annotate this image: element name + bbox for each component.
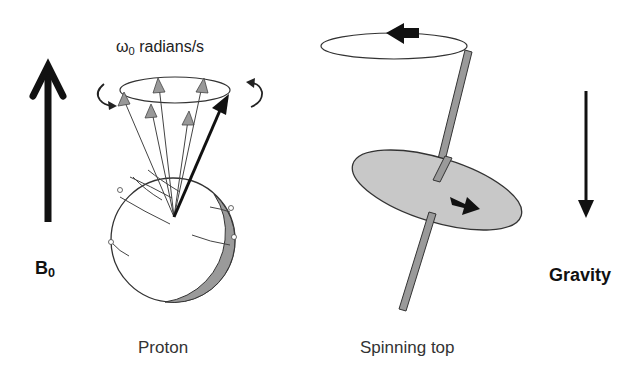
precession-direction-arrow	[386, 23, 419, 44]
spinning-top	[321, 23, 531, 311]
rotation-arrow-left	[98, 84, 117, 110]
diagram-canvas	[0, 0, 640, 374]
b0-label-subscript: 0	[48, 266, 55, 280]
precession-frequency-label: ω0 radians/s	[116, 38, 204, 57]
spinning-top-caption: Spinning top	[360, 338, 455, 358]
gravity-arrow	[578, 91, 594, 218]
top-disk	[343, 134, 530, 247]
proton-caption: Proton	[138, 338, 188, 358]
gravity-label: Gravity	[549, 265, 611, 286]
omega-units: radians/s	[135, 38, 204, 55]
rotation-arrow-right	[246, 78, 262, 107]
omega-symbol: ω	[116, 38, 129, 55]
b0-label-base: B	[35, 258, 48, 278]
b0-field-arrow	[33, 66, 63, 222]
b0-label: B0	[35, 258, 55, 280]
proton-sphere	[109, 170, 237, 303]
